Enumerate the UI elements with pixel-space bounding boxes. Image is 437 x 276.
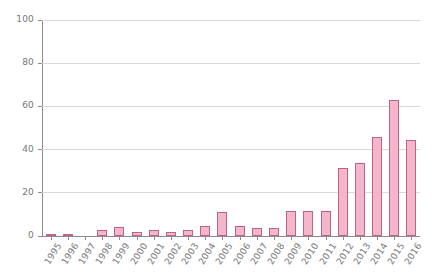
x-axis-tick-mark: [85, 236, 86, 240]
bar: [286, 211, 296, 236]
x-axis-tick-label: 1995: [42, 241, 63, 266]
bar: [303, 211, 313, 236]
bar: [217, 212, 227, 236]
bar: [389, 100, 399, 236]
x-axis-tick-mark: [360, 236, 361, 240]
y-axis-tick-label: 0: [0, 230, 34, 240]
x-axis-tick-mark: [377, 236, 378, 240]
x-axis-tick-mark: [326, 236, 327, 240]
y-axis-tick-label: 60: [0, 100, 34, 110]
x-axis-tick-mark: [394, 236, 395, 240]
x-axis-tick-mark: [291, 236, 292, 240]
x-axis-tick-mark: [274, 236, 275, 240]
x-axis-tick-mark: [171, 236, 172, 240]
x-axis-tick-mark: [308, 236, 309, 240]
y-axis-tick-label: 20: [0, 187, 34, 197]
x-axis-tick-mark: [222, 236, 223, 240]
bar: [372, 137, 382, 236]
x-axis-tick-mark: [240, 236, 241, 240]
x-axis-tick-mark: [137, 236, 138, 240]
x-axis-tick-mark: [257, 236, 258, 240]
x-axis-tick-mark: [411, 236, 412, 240]
x-axis-tick-mark: [343, 236, 344, 240]
bar: [321, 211, 331, 236]
x-axis-tick-mark: [51, 236, 52, 240]
x-axis-tick-mark: [154, 236, 155, 240]
x-axis-tick-label: 2004: [197, 241, 218, 266]
x-axis-tick-mark: [205, 236, 206, 240]
bar: [114, 227, 124, 236]
y-axis-tick-label: 40: [0, 144, 34, 154]
bar: [338, 168, 348, 236]
x-axis-tick-label: 2006: [231, 241, 252, 266]
bars-layer: [42, 20, 420, 236]
bar-chart: 020406080100 199519961997199819992000200…: [0, 0, 437, 276]
y-axis-tick-label: 80: [0, 57, 34, 67]
x-axis-tick-mark: [119, 236, 120, 240]
bar: [200, 226, 210, 236]
x-axis-tick-label: 2016: [403, 241, 424, 266]
x-axis-tick-mark: [102, 236, 103, 240]
bar: [355, 163, 365, 236]
bar: [252, 228, 262, 236]
y-axis-tick-label: 100: [0, 14, 34, 24]
bar: [235, 226, 245, 236]
x-axis-tick-mark: [68, 236, 69, 240]
x-axis-tick-mark: [188, 236, 189, 240]
bar: [406, 140, 416, 236]
bar: [269, 228, 279, 236]
x-axis-tick-label: 1998: [94, 241, 115, 266]
